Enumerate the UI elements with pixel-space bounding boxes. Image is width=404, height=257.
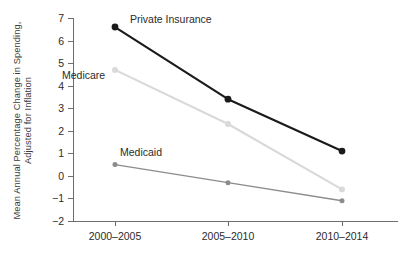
data-point-private-insurance-0: [112, 24, 119, 31]
data-point-medicaid-0: [113, 162, 118, 167]
plot-area: 76543210−1−2 2000–20052005–20102010–2014…: [0, 0, 404, 257]
data-point-medicare-0: [112, 67, 118, 73]
series-layer: [0, 0, 404, 257]
data-point-medicaid-2: [340, 198, 345, 203]
series-line-private-insurance: [115, 27, 342, 151]
data-point-medicare-1: [225, 121, 231, 127]
chart-container: Mean Annual Percentage Change in Spendin…: [0, 0, 404, 257]
data-point-medicaid-1: [226, 180, 231, 185]
series-label-medicare: Medicare: [62, 69, 105, 81]
series-label-private-insurance: Private Insurance: [130, 13, 212, 25]
data-point-private-insurance-2: [339, 148, 346, 155]
data-point-medicare-2: [339, 186, 345, 192]
series-label-medicaid: Medicaid: [120, 146, 162, 158]
data-point-private-insurance-1: [225, 96, 232, 103]
series-line-medicare: [115, 70, 342, 190]
